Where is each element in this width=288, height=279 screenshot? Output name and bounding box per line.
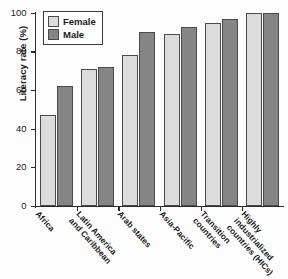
bar-group [242, 13, 283, 206]
y-tick-20: 20 [31, 167, 36, 168]
legend-item-female: Female [48, 15, 96, 28]
y-tick-80: 80 [31, 51, 36, 52]
literacy-rate-bar-chart: Literacy rate (%) 020406080100 AfricaLat… [0, 0, 288, 279]
bar [40, 115, 56, 206]
y-tick-label-60: 60 [16, 84, 27, 95]
bar [181, 27, 197, 206]
bar [164, 34, 180, 206]
x-category-label: Highlyindustrializedcountries (HICs) [225, 209, 288, 277]
bar-group [160, 13, 201, 206]
legend-label-male: Male [63, 29, 84, 40]
bar [205, 23, 221, 206]
x-category-label-line: Asia-Pacific [157, 209, 196, 251]
bar [222, 19, 238, 206]
x-axis-category-labels: AfricaLatin Americaand CaribbeanArab sta… [35, 209, 288, 279]
y-tick-0: 0 [31, 206, 36, 207]
y-tick-60: 60 [31, 90, 36, 91]
bar [139, 32, 155, 206]
y-tick-label-80: 80 [16, 45, 27, 56]
y-tick-label-100: 100 [11, 7, 27, 18]
legend-swatch-male-icon [48, 29, 59, 40]
x-category-label: Asia-Pacific [157, 209, 196, 251]
bar [263, 13, 279, 206]
x-category-label: Arab states [116, 209, 154, 250]
legend-swatch-female-icon [48, 16, 59, 27]
x-category-label-line: Arab states [116, 209, 154, 250]
bar [98, 67, 114, 206]
bar [122, 55, 138, 206]
y-tick-label-0: 0 [21, 200, 26, 211]
legend-item-male: Male [48, 28, 96, 41]
bar-group [118, 13, 159, 206]
y-tick-40: 40 [31, 129, 36, 130]
y-tick-label-40: 40 [16, 123, 27, 134]
y-tick-label-20: 20 [16, 161, 27, 172]
x-category-label-line: Africa [34, 209, 57, 233]
legend-label-female: Female [63, 16, 96, 27]
bar [57, 86, 73, 206]
legend: Female Male [43, 11, 103, 45]
bar-group [201, 13, 242, 206]
bar [81, 69, 97, 206]
x-category-label: Latin Americaand Caribbean [67, 209, 121, 266]
x-category-label: Africa [34, 209, 57, 233]
bar [246, 13, 262, 206]
y-tick-100: 100 [31, 13, 36, 14]
